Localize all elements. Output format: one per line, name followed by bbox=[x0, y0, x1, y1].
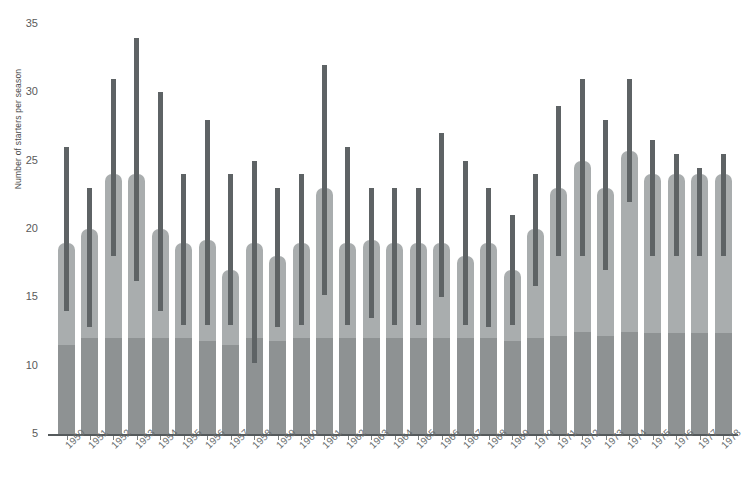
error-bar-1971 bbox=[556, 106, 561, 256]
bar-inner-1974 bbox=[621, 332, 638, 435]
x-tick-mark-1962 bbox=[348, 436, 349, 440]
bar-group-1952[interactable] bbox=[105, 0, 122, 434]
x-tick-mark-1975 bbox=[653, 436, 654, 440]
x-tick-mark-1955 bbox=[184, 436, 185, 440]
error-bar-1960 bbox=[299, 174, 304, 324]
error-bar-1965 bbox=[416, 188, 421, 325]
x-tick-mark-1954 bbox=[160, 436, 161, 440]
bar-inner-1971 bbox=[550, 336, 567, 434]
bar-group-1967[interactable] bbox=[457, 0, 474, 434]
error-bar-1963 bbox=[369, 188, 374, 318]
bar-group-1957[interactable] bbox=[222, 0, 239, 434]
x-tick-mark-1968 bbox=[489, 436, 490, 440]
bar-inner-1950 bbox=[58, 345, 75, 434]
error-bar-1962 bbox=[345, 147, 350, 325]
bar-group-1978[interactable] bbox=[715, 0, 732, 434]
x-tick-mark-1978 bbox=[723, 436, 724, 440]
x-tick-mark-1951 bbox=[90, 436, 91, 440]
bar-group-1973[interactable] bbox=[597, 0, 614, 434]
bar-group-1954[interactable] bbox=[152, 0, 169, 434]
x-tick-mark-1976 bbox=[676, 436, 677, 440]
bar-group-1972[interactable] bbox=[574, 0, 591, 434]
x-tick-mark-1966 bbox=[442, 436, 443, 440]
bar-group-1959[interactable] bbox=[269, 0, 286, 434]
x-tick-mark-1965 bbox=[418, 436, 419, 440]
bar-group-1953[interactable] bbox=[128, 0, 145, 434]
error-bar-1953 bbox=[134, 38, 139, 281]
x-tick-mark-1969 bbox=[512, 436, 513, 440]
bar-inner-1961 bbox=[316, 338, 333, 434]
bar-group-1951[interactable] bbox=[81, 0, 98, 434]
bar-group-1963[interactable] bbox=[363, 0, 380, 434]
bar-group-1955[interactable] bbox=[175, 0, 192, 434]
error-bar-1950 bbox=[64, 147, 69, 311]
bar-group-1961[interactable] bbox=[316, 0, 333, 434]
error-bar-1957 bbox=[228, 174, 233, 324]
bar-group-1976[interactable] bbox=[668, 0, 685, 434]
error-bar-1959 bbox=[275, 188, 280, 327]
x-tick-mark-1961 bbox=[324, 436, 325, 440]
bar-group-1950[interactable] bbox=[58, 0, 75, 434]
error-bar-1977 bbox=[697, 168, 702, 257]
x-tick-mark-1967 bbox=[465, 436, 466, 440]
bar-inner-1953 bbox=[128, 338, 145, 434]
error-bar-1956 bbox=[205, 120, 210, 325]
bar-group-1962[interactable] bbox=[339, 0, 356, 434]
bar-inner-1959 bbox=[269, 341, 286, 434]
error-bar-1967 bbox=[463, 161, 468, 325]
error-bar-1955 bbox=[181, 174, 186, 324]
bar-group-1970[interactable] bbox=[527, 0, 544, 434]
error-bar-1966 bbox=[439, 133, 444, 297]
bar-group-1975[interactable] bbox=[644, 0, 661, 434]
x-tick-mark-1960 bbox=[301, 436, 302, 440]
bar-group-1974[interactable] bbox=[621, 0, 638, 434]
error-bar-1974 bbox=[627, 79, 632, 202]
bar-inner-1967 bbox=[457, 338, 474, 434]
bar-inner-1976 bbox=[668, 333, 685, 434]
error-bar-1972 bbox=[580, 79, 585, 257]
bar-group-1960[interactable] bbox=[293, 0, 310, 434]
bar-inner-1957 bbox=[222, 345, 239, 434]
plot-area bbox=[0, 0, 738, 434]
bar-inner-1954 bbox=[152, 338, 169, 434]
x-tick-mark-1950 bbox=[67, 436, 68, 440]
x-tick-mark-1963 bbox=[371, 436, 372, 440]
bar-inner-1966 bbox=[433, 338, 450, 434]
bar-inner-1964 bbox=[386, 338, 403, 434]
bar-group-1968[interactable] bbox=[480, 0, 497, 434]
x-tick-mark-1964 bbox=[395, 436, 396, 440]
bar-group-1956[interactable] bbox=[199, 0, 216, 434]
bar-inner-1977 bbox=[691, 333, 708, 434]
x-tick-mark-1958 bbox=[254, 436, 255, 440]
bar-group-1969[interactable] bbox=[504, 0, 521, 434]
bar-inner-1951 bbox=[81, 338, 98, 434]
error-bar-1954 bbox=[158, 92, 163, 311]
bar-group-1966[interactable] bbox=[433, 0, 450, 434]
bar-inner-1975 bbox=[644, 333, 661, 434]
bar-inner-1968 bbox=[480, 338, 497, 434]
bar-group-1977[interactable] bbox=[691, 0, 708, 434]
x-tick-mark-1977 bbox=[700, 436, 701, 440]
x-tick-mark-1974 bbox=[629, 436, 630, 440]
error-bar-1976 bbox=[674, 154, 679, 257]
bar-inner-1969 bbox=[504, 341, 521, 434]
error-bar-1952 bbox=[111, 79, 116, 257]
x-tick-mark-1957 bbox=[231, 436, 232, 440]
error-bar-1969 bbox=[510, 215, 515, 324]
bar-group-1971[interactable] bbox=[550, 0, 567, 434]
bar-inner-1965 bbox=[410, 338, 427, 434]
x-tick-mark-1972 bbox=[582, 436, 583, 440]
bar-inner-1978 bbox=[715, 333, 732, 434]
bar-inner-1955 bbox=[175, 338, 192, 434]
bar-group-1964[interactable] bbox=[386, 0, 403, 434]
error-bar-1964 bbox=[392, 188, 397, 325]
error-bar-1973 bbox=[603, 120, 608, 270]
bar-group-1965[interactable] bbox=[410, 0, 427, 434]
x-tick-mark-1956 bbox=[207, 436, 208, 440]
x-tick-mark-1973 bbox=[606, 436, 607, 440]
error-bar-1968 bbox=[486, 188, 491, 327]
bar-group-1958[interactable] bbox=[246, 0, 263, 434]
bar-inner-1972 bbox=[574, 332, 591, 435]
bar-inner-1970 bbox=[527, 338, 544, 434]
bar-inner-1960 bbox=[293, 338, 310, 434]
